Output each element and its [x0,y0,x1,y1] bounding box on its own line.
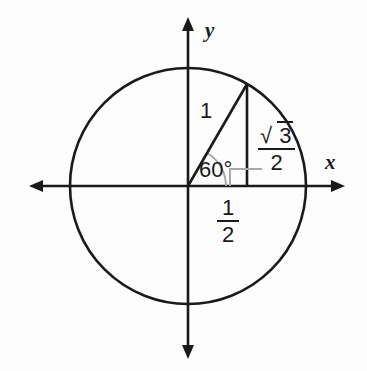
x-axis-left-arrowhead [29,180,43,192]
y-axis-top-arrowhead [182,17,194,31]
x-axis-right-arrowhead [331,180,345,192]
y-axis-bottom-arrowhead [182,345,194,359]
unit-circle-figure: y x 1 60° √ 3 2 1 2 [0,0,367,371]
figure-canvas [0,0,367,371]
adjacent-length-label: 1 2 [217,196,239,246]
fraction-denominator: 2 [220,223,236,246]
x-axis-label: x [325,152,336,173]
opposite-length-label: √ 3 2 [258,124,295,174]
hypotenuse-length-label: 1 [200,100,212,122]
y-axis-label: y [205,20,214,41]
radical-expression: √ 3 [258,124,295,147]
radicand: 3 [277,121,293,148]
fraction-numerator: 1 [220,196,236,219]
fraction-denominator: 2 [269,151,285,174]
radical-sign-icon: √ [260,123,272,148]
angle-measure-label: 60° [199,159,232,181]
right-angle-marker [230,169,247,186]
